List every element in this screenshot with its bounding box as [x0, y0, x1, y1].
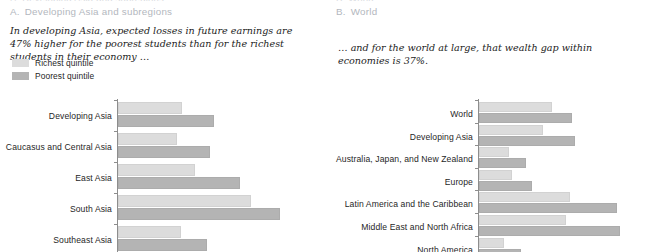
panel-a: A.Developing Asia and subregions In deve…	[0, 0, 325, 252]
bar-poorest	[118, 208, 280, 220]
chart-panel-b: WorldDeveloping AsiaAustralia, Japan, an…	[325, 99, 650, 252]
bar-richest	[118, 133, 177, 145]
axis-tick	[114, 193, 117, 194]
bar-poorest	[479, 136, 575, 146]
panel-b: B.World … and for the world at large, th…	[325, 0, 650, 252]
legend-item-richest: Richest quintile	[12, 57, 94, 68]
category-label: Caucasus and Central Asia	[0, 142, 112, 152]
panel-a-title-text: Developing Asia and subregions	[25, 6, 172, 17]
bar-poorest	[118, 146, 210, 158]
figure-root: A. Developing Asia and subregions B. Wor…	[0, 0, 650, 252]
panel-b-blurb: … and for the world at large, that wealt…	[338, 41, 643, 67]
axis-tick	[475, 100, 478, 101]
panel-a-title: A.Developing Asia and subregions	[10, 6, 172, 17]
bar-richest	[118, 226, 181, 238]
axis-tick	[114, 224, 117, 225]
legend-swatch-richest	[12, 59, 29, 67]
axis-tick	[475, 168, 478, 169]
bar-poorest	[118, 177, 240, 189]
panel-b-title-text: World	[351, 6, 378, 17]
panel-b-title: B.World	[336, 6, 377, 17]
category-label: Developing Asia	[243, 132, 473, 142]
category-label: Middle East and North Africa	[243, 222, 473, 232]
bar-richest	[118, 164, 195, 176]
legend-label-poorest: Poorest quintile	[35, 71, 94, 81]
bar-richest	[479, 170, 512, 180]
bar-richest	[118, 102, 182, 114]
bar-richest	[479, 215, 566, 225]
axis-tick	[475, 145, 478, 146]
bar-richest	[479, 102, 552, 112]
bar-poorest	[118, 239, 207, 251]
panel-a-letter: A.	[10, 6, 20, 17]
legend-label-richest: Richest quintile	[35, 58, 93, 68]
legend-item-poorest: Poorest quintile	[12, 70, 94, 81]
bar-poorest	[479, 203, 617, 213]
bar-richest	[479, 238, 504, 248]
legend-swatch-poorest	[12, 72, 29, 80]
legend: Richest quintile Poorest quintile	[12, 57, 94, 83]
category-label: World	[243, 109, 473, 119]
bar-poorest	[479, 226, 620, 236]
bar-richest	[479, 147, 509, 157]
bar-richest	[479, 192, 570, 202]
bar-richest	[118, 195, 251, 207]
category-label: North America	[243, 245, 473, 252]
bar-poorest	[479, 249, 521, 252]
category-label: East Asia	[0, 173, 112, 183]
axis-tick	[475, 123, 478, 124]
axis-tick	[475, 213, 478, 214]
bar-poorest	[118, 115, 214, 127]
axis-tick	[475, 236, 478, 237]
bar-poorest	[479, 181, 532, 191]
category-label: Developing Asia	[0, 111, 112, 121]
bar-richest	[479, 125, 543, 135]
category-label: Latin America and the Caribbean	[243, 199, 473, 209]
bar-poorest	[479, 158, 526, 168]
category-label: Southeast Asia	[0, 235, 112, 245]
category-label: Europe	[243, 177, 473, 187]
bar-poorest	[479, 113, 572, 123]
axis-tick	[114, 162, 117, 163]
category-label: Australia, Japan, and New Zealand	[243, 154, 473, 164]
panel-b-letter: B.	[336, 6, 346, 17]
axis-tick	[114, 131, 117, 132]
category-label: South Asia	[0, 204, 112, 214]
axis-tick	[475, 190, 478, 191]
axis-tick	[114, 100, 117, 101]
